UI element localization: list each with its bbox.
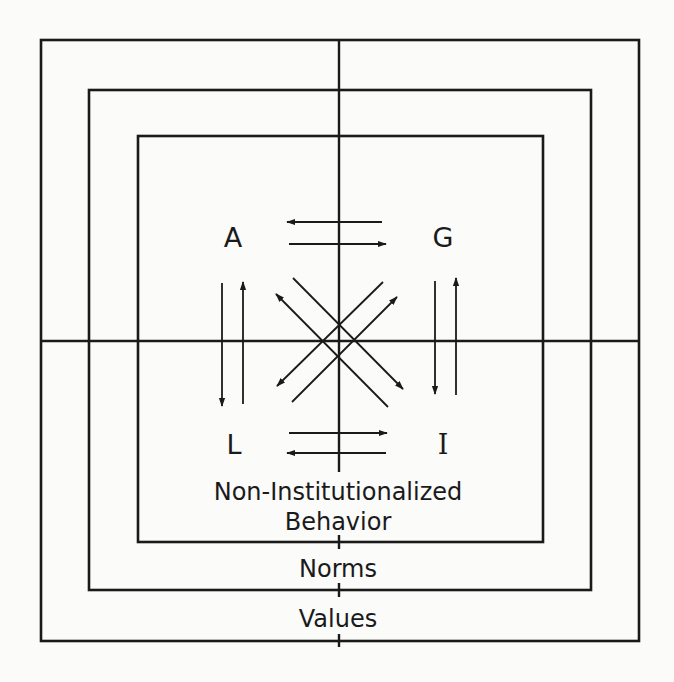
label-g-goal-attainment: G — [433, 224, 454, 251]
label-non-institutionalized: Non-Institutionalized — [214, 480, 463, 504]
arrow-i-to-a-diagonal — [276, 294, 388, 407]
label-behavior: Behavior — [285, 510, 392, 534]
label-l-latency: L — [226, 431, 241, 458]
arrow-a-to-i-diagonal — [293, 278, 403, 389]
label-norms: Norms — [299, 557, 377, 581]
arrow-g-to-l-diagonal — [277, 282, 383, 386]
label-values: Values — [299, 607, 377, 631]
arrow-l-to-g-diagonal — [292, 297, 397, 402]
label-a-adaptation: A — [224, 224, 242, 251]
label-i-integration: I — [438, 431, 449, 458]
